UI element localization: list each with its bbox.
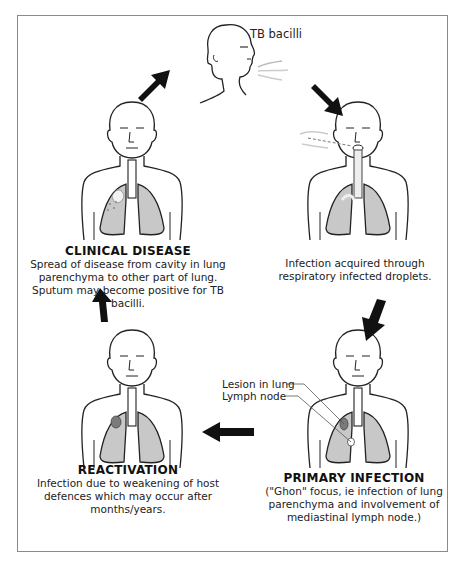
tb-bacilli-label: TB bacilli xyxy=(250,27,302,41)
infection-figure xyxy=(298,100,418,240)
primary-infection-description: ("Ghon" focus, ie infection of lung pare… xyxy=(265,485,443,523)
primary-infection-title: PRIMARY INFECTION xyxy=(260,472,448,485)
reactivation-figure xyxy=(72,328,192,468)
clinical-disease-figure xyxy=(72,100,192,240)
arrow-up-icon xyxy=(90,286,116,324)
infection-caption: Infection acquired through respiratory i… xyxy=(270,257,440,283)
arrow-down-right-icon xyxy=(307,80,347,120)
reactivation-caption: REACTIVATION Infection due to weakening … xyxy=(30,464,226,516)
reactivation-title: REACTIVATION xyxy=(30,464,226,477)
clinical-disease-description: Spread of disease from cavity in lung pa… xyxy=(30,258,226,309)
primary-infection-caption: PRIMARY INFECTION ("Ghon" focus, ie infe… xyxy=(260,472,448,524)
lesion-in-lung-label: Lesion in lung xyxy=(222,378,295,390)
clinical-disease-title: CLINICAL DISEASE xyxy=(30,245,226,258)
arrow-left-icon xyxy=(200,420,256,444)
lymph-node-label: Lymph node xyxy=(222,390,286,402)
reactivation-description: Infection due to weakening of host defen… xyxy=(37,477,219,515)
clinical-disease-caption: CLINICAL DISEASE Spread of disease from … xyxy=(30,245,226,310)
infection-description: Infection acquired through respiratory i… xyxy=(279,257,432,282)
arrow-down-left-icon xyxy=(358,297,390,343)
arrow-up-right-icon xyxy=(134,66,174,106)
